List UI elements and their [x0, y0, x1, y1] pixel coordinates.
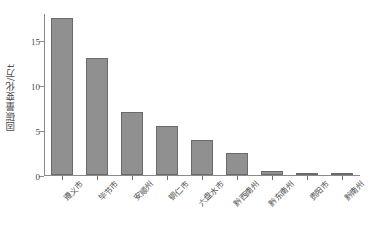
- bar: [86, 58, 108, 175]
- bar: [156, 126, 178, 176]
- bar: [191, 140, 213, 175]
- y-axis-title: 固碳量变化/万t: [4, 50, 18, 146]
- plot-area: 051015: [44, 14, 360, 176]
- y-tick-label: 0: [36, 172, 41, 182]
- x-axis-label: 遵义市: [54, 178, 85, 209]
- x-axis-labels: 遵义市毕节市安顺州铜仁市六盘水市黔西南州黔东南州贵阳市黔南州: [44, 178, 360, 242]
- bar-chart: 固碳量变化/万t 051015 遵义市毕节市安顺州铜仁市六盘水市黔西南州黔东南州…: [0, 0, 368, 242]
- y-tick-label: 5: [36, 127, 41, 137]
- bar: [121, 112, 143, 175]
- y-tick-label: 10: [31, 82, 40, 92]
- bars-layer: [44, 14, 360, 176]
- bar: [296, 173, 318, 175]
- y-tick-label: 15: [31, 37, 40, 47]
- bar: [261, 171, 283, 176]
- bar: [331, 173, 353, 175]
- bar: [226, 153, 248, 175]
- bar: [51, 18, 73, 175]
